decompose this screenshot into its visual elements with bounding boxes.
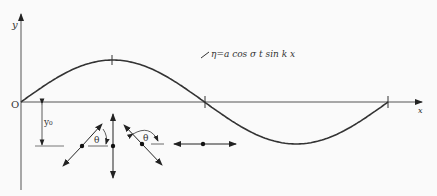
particle-4 [201, 142, 205, 146]
equation-leader [201, 52, 209, 58]
particle-path-inclined-right-up [124, 125, 142, 144]
angle-arc-1 [103, 129, 107, 144]
depth-label: y₀ [43, 117, 53, 127]
y-axis-label: y [11, 19, 18, 30]
origin-label: O [11, 99, 19, 110]
particle-1 [80, 144, 84, 148]
equation-label: η=a cos σ t sin k x [211, 49, 295, 59]
diagram: y x O η=a cos σ t sin k x y₀ θ θ [0, 0, 437, 196]
particle-path-inclined-left [63, 146, 82, 166]
theta-label-2: θ [143, 133, 148, 143]
theta-label-1: θ [94, 135, 99, 145]
x-axis-label: x [418, 106, 423, 115]
particle-path-inclined-right-down [142, 144, 162, 165]
wave-diagram: y x O η=a cos σ t sin k x y₀ θ θ [0, 0, 437, 196]
particle-2 [111, 144, 115, 148]
